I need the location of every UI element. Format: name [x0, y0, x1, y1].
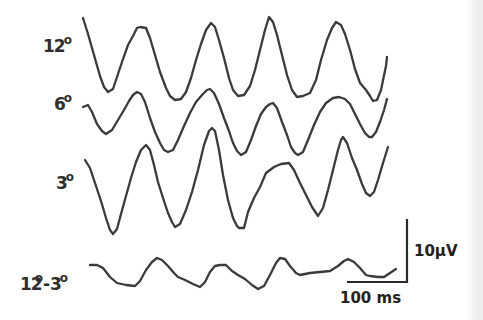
amplitude-scale-label: 10µV [414, 244, 458, 259]
trace-12-degrees [83, 17, 387, 101]
traces-plot [0, 0, 483, 320]
trace-difference [90, 258, 396, 289]
trace-6-degrees [83, 89, 387, 155]
scale-bar [347, 219, 407, 282]
evoked-potential-figure: 12o 6o 3o 12o-3o 10µV 100 ms [0, 0, 483, 320]
trace-3-degrees [85, 128, 388, 234]
time-scale-label: 100 ms [340, 291, 401, 306]
